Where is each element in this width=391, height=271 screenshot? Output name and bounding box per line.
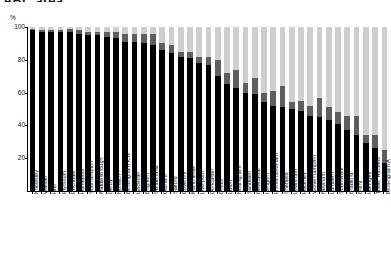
bar-segment-series_3 [280,27,286,86]
bar-segment-series_2 [261,93,267,103]
bar-segment-series_2 [150,34,156,45]
x-axis-label: Doncaster [210,169,216,195]
x-axis-label: Plymouth [62,171,68,194]
x-axis-label: Hull [52,184,58,194]
bar [280,27,286,191]
x-axis-label: Birmingham K.N [126,153,132,194]
bar [159,27,165,191]
bar-segment-series_3 [354,27,360,116]
bar-segment-series_1 [215,76,221,191]
bar-segment-series_1 [67,32,73,191]
bar-segment-series_2 [354,116,360,136]
bar [326,27,332,191]
bar-segment-series_3 [363,27,369,135]
bar-segment-series_3 [372,27,378,135]
y-axis-tick-mark [25,27,28,28]
bar [104,27,110,191]
bar-segment-series_1 [224,84,230,191]
x-axis-label: Nottingham [237,165,243,194]
x-axis-label: Liverpool [200,171,206,194]
bar-segment-series_3 [344,27,350,116]
bar [252,27,258,191]
bar-segment-series_3 [252,27,258,78]
x-axis-label: Hackney [302,172,308,194]
x-axis-label: Islington [265,173,271,194]
chart-title: ABC area [3,0,63,2]
bar [289,27,295,191]
bar [113,27,119,191]
bar [215,27,221,191]
bar-segment-series_2 [169,45,175,53]
bar-segment-series_2 [270,91,276,106]
bar-segment-series_2 [122,34,128,42]
bar [169,27,175,191]
bar-segment-series_1 [113,38,119,191]
bar-segment-series_1 [76,34,82,191]
bar [30,27,36,191]
bar-segment-series_2 [233,70,239,88]
x-axis-label: Newham [321,172,327,194]
bar-segment-series_2 [132,34,138,42]
x-axis-label: Tower Hamlets [376,157,382,194]
bar-segment-series_2 [224,73,230,84]
bar [298,27,304,191]
bar-segment-series_1 [104,37,110,191]
bar [206,27,212,191]
x-axis-label: Middlesbrough [99,157,105,194]
x-axis-label: Haringey [367,172,373,194]
bar-segment-series_3 [178,27,184,52]
x-axis-label: Manchester [191,165,197,194]
bar-segment-series_2 [141,34,147,44]
bar-segment-series_2 [344,116,350,131]
bar-segment-series_1 [132,42,138,191]
x-axis-label: Leicester [136,171,142,194]
bar-segment-series_3 [307,27,313,106]
x-axis-label: Norwich [117,174,123,194]
x-axis-label: Luton [228,180,234,194]
bar [178,27,184,191]
x-axis-label: Oldham [163,174,169,194]
bar-segment-series_3 [298,27,304,101]
x-axis-label: Hartlepool [80,169,86,195]
bar-segment-series_1 [48,32,54,191]
bar-segment-series_1 [30,30,36,191]
bar-segment-series_2 [363,135,369,143]
x-axis-label: Derby [108,179,114,194]
x-axis-label: Lambeth [330,172,336,194]
bar-segment-series_2 [215,60,221,76]
bar-segment-series_2 [298,101,304,111]
bar-segment-series_2 [280,86,286,107]
bar-segment-series_3 [317,27,323,98]
plot-inner: 20406080100 [28,27,389,191]
x-axis-label: Salford [173,176,179,194]
x-axis-label: Rochdale [71,170,77,194]
bar-segment-series_3 [261,27,267,93]
bar [196,27,202,191]
bar [48,27,54,191]
x-axis-label: Sunderland [154,165,160,194]
bar-segment-series_3 [243,27,249,83]
bar [132,27,138,191]
bar [363,27,369,191]
bar-segment-series_1 [159,50,165,191]
plot-area: 20406080100 [27,27,389,192]
bar [141,27,147,191]
bar-segment-series_2 [307,106,313,116]
x-axis-label: Sandwell [247,171,253,194]
y-axis-tick-mark [25,158,28,159]
x-axis-label: Sheffield [284,172,290,194]
x-axis-label: Newcastle [256,168,262,194]
bar [354,27,360,191]
bar [224,27,230,191]
x-axis-label: Birmingham A [386,159,391,194]
bar [335,27,341,191]
bar-segment-series_2 [372,135,378,148]
bar-segment-series_3 [289,27,295,102]
bar-segment-series_2 [335,112,341,123]
bar-segment-series_1 [58,32,64,191]
bar [58,27,64,191]
bar-segment-series_2 [252,78,258,94]
x-axis-label: Wolverhampton [312,155,318,194]
x-axis-label: Walsall [43,176,49,194]
